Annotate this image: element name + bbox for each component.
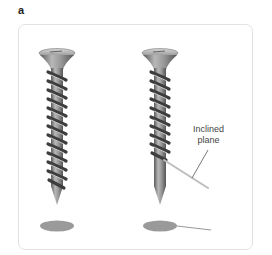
screw-left: [39, 49, 75, 232]
shadow-left: [40, 221, 74, 232]
annotation-leader-line: [192, 150, 208, 178]
inclined-plane-line: [164, 160, 208, 188]
annotation-line-2: plane: [193, 135, 224, 146]
shadow-right: [143, 221, 177, 232]
shadow-inclined-plane: [177, 226, 211, 230]
screw-illustration: [0, 0, 272, 255]
annotation-line-1: Inclined: [193, 124, 224, 135]
inclined-plane-label: Inclined plane: [193, 124, 224, 146]
